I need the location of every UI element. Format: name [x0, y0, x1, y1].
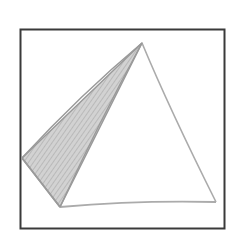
edge-bottom	[60, 202, 216, 207]
edge-apex-bottom-right	[142, 43, 216, 202]
pyramid-sketch	[0, 0, 242, 232]
